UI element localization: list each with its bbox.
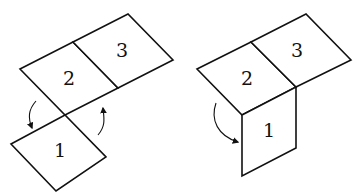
fold-arrow-down-icon: [29, 101, 36, 128]
folding-diagram: 2 3 1 2 3 1: [0, 0, 357, 195]
face-3-label: 3: [291, 39, 303, 61]
face-1-label: 1: [263, 119, 275, 141]
figure-folded: 2 3 1: [197, 14, 351, 176]
face-2-label: 2: [241, 67, 253, 89]
face-2-label: 2: [63, 67, 75, 89]
fold-arrow-icon: [214, 103, 238, 142]
face-1-label: 1: [54, 139, 66, 161]
face-3-label: 3: [116, 39, 128, 61]
figure-unfolded: 2 3 1: [11, 14, 173, 191]
fold-arrow-up-icon: [98, 108, 104, 135]
